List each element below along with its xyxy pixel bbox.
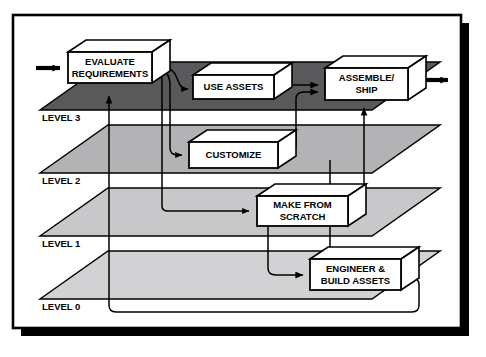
box-customize[interactable]: CUSTOMIZE bbox=[189, 130, 296, 168]
box-label-assemble-line-1: ASSEMBLE/ bbox=[339, 72, 395, 83]
box-label-make-from-scratch-line-2: SCRATCH bbox=[280, 211, 326, 222]
box-make-from-scratch[interactable]: MAKE FROM SCRATCH bbox=[257, 184, 366, 226]
level-label-1: LEVEL 1 bbox=[42, 238, 81, 249]
level-label-3: LEVEL 3 bbox=[42, 112, 80, 123]
box-label-engineer-line-2: BUILD ASSETS bbox=[321, 275, 390, 286]
box-label-assemble-line-2: SHIP bbox=[355, 84, 378, 95]
level-1-plane bbox=[40, 188, 440, 236]
level-label-0: LEVEL 0 bbox=[42, 301, 80, 312]
level-label-2: LEVEL 2 bbox=[42, 175, 80, 186]
box-label-use-assets: USE ASSETS bbox=[204, 81, 264, 92]
box-use-assets[interactable]: USE ASSETS bbox=[193, 63, 292, 99]
box-label-engineer-line-1: ENGINEER & bbox=[326, 263, 385, 274]
box-evaluate-requirements[interactable]: EVALUATE REQUIREMENTS bbox=[68, 40, 170, 83]
box-label-customize: CUSTOMIZE bbox=[206, 149, 262, 160]
box-assemble-ship[interactable]: ASSEMBLE/ SHIP bbox=[325, 56, 426, 100]
box-engineer-build-assets[interactable]: ENGINEER & BUILD ASSETS bbox=[310, 247, 419, 290]
box-label-make-from-scratch-line-1: MAKE FROM bbox=[273, 199, 332, 210]
box-label-evaluate-line-1: EVALUATE bbox=[85, 56, 135, 67]
process-flow-diagram: LEVEL 3 LEVEL 2 LEVEL 1 LEVEL 0 bbox=[0, 0, 486, 357]
box-label-evaluate-line-2: REQUIREMENTS bbox=[72, 68, 149, 79]
diagram-canvas: LEVEL 3 LEVEL 2 LEVEL 1 LEVEL 0 bbox=[0, 0, 486, 357]
